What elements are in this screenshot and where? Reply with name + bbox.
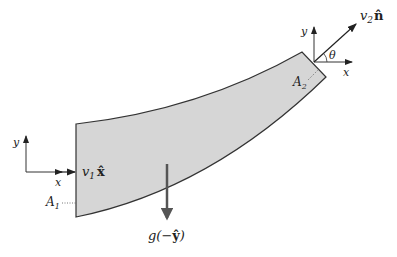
gravity-label: g(−ŷ)	[148, 228, 185, 243]
pipe-diagram: y x v1x̂ A1 y x θ v2n̂ A2 g(−ŷ)	[0, 0, 397, 257]
inlet-axes	[26, 136, 75, 172]
pipe-body	[76, 52, 326, 217]
theta-arc	[324, 53, 327, 62]
outlet-velocity-label: v2n̂	[360, 8, 384, 25]
inlet-area-label: A1	[45, 195, 60, 211]
outlet-y-label: y	[300, 25, 308, 38]
theta-label: θ	[329, 49, 336, 62]
outlet-x-label: x	[343, 66, 350, 79]
inlet-x-label: x	[55, 176, 62, 189]
inlet-y-label: y	[12, 136, 20, 149]
